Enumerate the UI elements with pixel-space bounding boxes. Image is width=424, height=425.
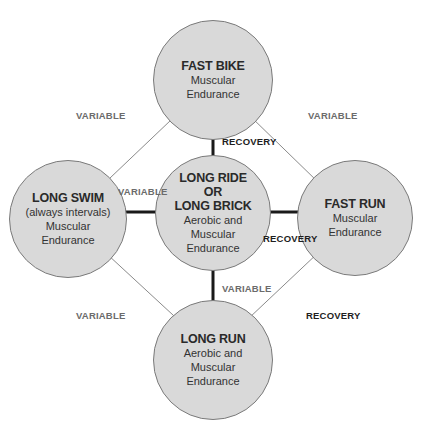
label-variable-top-left: VARIABLE bbox=[76, 110, 125, 121]
node-sub: Muscular bbox=[46, 219, 91, 233]
label-variable-center-bottom: VARIABLE bbox=[222, 283, 271, 294]
node-sub: Endurance bbox=[186, 374, 239, 388]
node-sub: Aerobic and bbox=[184, 346, 243, 360]
node-title: FAST RUN bbox=[325, 197, 386, 211]
label-variable-top-right: VARIABLE bbox=[308, 110, 357, 121]
node-long-run: LONG RUN Aerobic and Muscular Endurance bbox=[153, 300, 273, 420]
node-title: LONG BRICK bbox=[174, 199, 251, 213]
node-title: LONG RUN bbox=[180, 332, 245, 346]
node-sub: Endurance bbox=[186, 241, 239, 255]
node-sub: Muscular bbox=[191, 360, 236, 374]
node-sub: Muscular bbox=[191, 227, 236, 241]
label-recovery-center-right: RECOVERY bbox=[263, 233, 318, 244]
node-sub: (always intervals) bbox=[26, 205, 111, 219]
label-recovery-center-top: RECOVERY bbox=[222, 136, 277, 147]
node-sub: Endurance bbox=[328, 225, 381, 239]
node-sub: Muscular bbox=[333, 211, 378, 225]
node-title: FAST BIKE bbox=[181, 59, 244, 73]
label-variable-bottom-left: VARIABLE bbox=[76, 310, 125, 321]
node-sub: Endurance bbox=[186, 87, 239, 101]
label-variable-center-left: VARIABLE bbox=[118, 186, 167, 197]
node-fast-bike: FAST BIKE Muscular Endurance bbox=[153, 20, 273, 140]
node-title: LONG RIDE bbox=[179, 171, 247, 185]
node-title: LONG SWIM bbox=[32, 191, 104, 205]
node-sub: Endurance bbox=[41, 233, 94, 247]
node-long-ride-or-brick: LONG RIDE OR LONG BRICK Aerobic and Musc… bbox=[155, 155, 271, 271]
node-long-swim: LONG SWIM (always intervals) Muscular En… bbox=[9, 160, 127, 278]
node-sub: Muscular bbox=[191, 73, 236, 87]
label-recovery-bottom-right: RECOVERY bbox=[306, 310, 361, 321]
node-title: OR bbox=[204, 185, 222, 199]
node-fast-run: FAST RUN Muscular Endurance bbox=[297, 160, 413, 276]
node-sub: Aerobic and bbox=[184, 213, 243, 227]
